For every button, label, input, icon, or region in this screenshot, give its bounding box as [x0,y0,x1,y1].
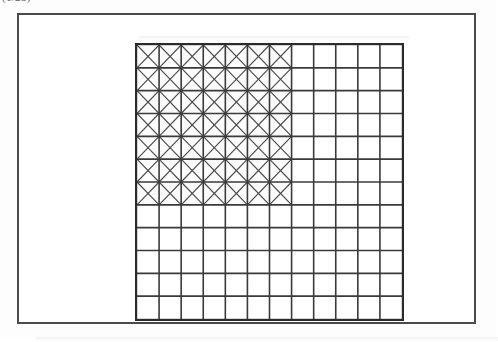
grid-cell-empty [358,205,380,228]
grid-cell-empty [336,251,358,274]
grid-cell-empty [314,296,336,319]
grid-cell-empty [380,136,402,159]
grid-cell-empty [247,205,269,228]
grid-cell-empty [203,251,225,274]
grid-cell-empty [292,91,314,114]
grid-cell-empty [159,273,181,296]
grid-cell-empty [358,273,380,296]
grid-cell-empty [159,205,181,228]
grid-cell-empty [336,273,358,296]
grid-cell-empty [336,296,358,319]
grid-cell-empty [314,91,336,114]
grid-cell-empty [358,114,380,137]
grid-svg [135,43,404,321]
grid-cell-empty [247,296,269,319]
grid-cell-empty [270,251,292,274]
grid-cell-empty [336,114,358,137]
scan-shading-top [139,36,409,40]
grid-cell-empty [380,182,402,205]
grid-cell-empty [292,45,314,68]
grid-cell-empty [270,273,292,296]
figure-frame [17,13,476,324]
grid-cell-empty [292,114,314,137]
grid-cell-empty [358,296,380,319]
grid-cell-empty [358,251,380,274]
grid-cell-empty [292,68,314,91]
grid-cell-empty [203,205,225,228]
grid-cell-empty [137,251,159,274]
grid-cell-empty [159,296,181,319]
grid-cell-empty [314,273,336,296]
grid-cell-empty [380,159,402,182]
grid-cell-empty [314,228,336,251]
grid-cell-empty [203,296,225,319]
grid-cell-empty [314,182,336,205]
grid-cell-empty [292,228,314,251]
grid-cell-empty [380,228,402,251]
grid-cell-empty [314,45,336,68]
grid-cell-empty [336,91,358,114]
grid-diagram [135,43,404,321]
grid-cell-empty [358,228,380,251]
grid-cell-empty [270,205,292,228]
grid-cell-empty [159,228,181,251]
grid-cell-empty [336,45,358,68]
grid-cell-empty [314,159,336,182]
grid-cell-empty [292,205,314,228]
grid-cell-empty [292,182,314,205]
grid-cell-empty [314,68,336,91]
grid-cell-empty [181,296,203,319]
grid-cell-empty [358,68,380,91]
grid-cell-empty [380,68,402,91]
grid-cell-empty [247,251,269,274]
grid-cell-empty [225,228,247,251]
grid-cell-empty [336,159,358,182]
grid-cell-empty [314,205,336,228]
grid-cell-empty [137,205,159,228]
scan-shading-bottom [36,337,498,342]
grid-cell-empty [380,91,402,114]
grid-cell-empty [181,228,203,251]
grid-cell-empty [380,273,402,296]
grid-cell-empty [203,273,225,296]
grid-cell-empty [292,136,314,159]
grid-cell-empty [314,136,336,159]
grid-cell-empty [358,45,380,68]
grid-cell-empty [137,296,159,319]
grid-cell-empty [336,205,358,228]
grid-cell-empty [137,273,159,296]
grid-cell-empty [336,68,358,91]
grid-cell-empty [225,205,247,228]
grid-cell-empty [358,159,380,182]
grid-cell-empty [137,228,159,251]
grid-cell-empty [181,205,203,228]
grid-cell-empty [225,251,247,274]
grid-cell-empty [380,114,402,137]
grid-cell-empty [159,251,181,274]
grid-cell-empty [380,205,402,228]
grid-cell-empty [181,273,203,296]
grid-cell-empty [292,251,314,274]
grid-cell-empty [358,91,380,114]
grid-cell-empty [181,251,203,274]
grid-cell-empty [358,182,380,205]
grid-cell-empty [203,228,225,251]
grid-cell-empty [270,296,292,319]
grid-cell-empty [225,273,247,296]
grid-cell-empty [270,228,292,251]
grid-cell-empty [292,159,314,182]
grid-cell-empty [225,296,247,319]
grid-cell-empty [380,45,402,68]
grid-cell-empty [314,114,336,137]
figure-caption: (1/25) [2,0,31,3]
grid-cell-empty [358,136,380,159]
grid-cell-empty [292,273,314,296]
grid-cell-empty [380,251,402,274]
grid-cell-empty [336,136,358,159]
grid-cell-empty [336,228,358,251]
grid-cell-empty [292,296,314,319]
grid-cell-empty [314,251,336,274]
grid-cell-empty [336,182,358,205]
grid-cell-empty [247,228,269,251]
grid-cell-empty [380,296,402,319]
